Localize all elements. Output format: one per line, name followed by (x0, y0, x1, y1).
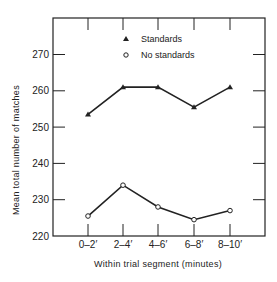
x-tick-label: 0–2′ (79, 239, 98, 250)
legend-circle-icon (124, 53, 128, 57)
series-line (88, 87, 230, 114)
legend-label-no-standards: No standards (141, 50, 195, 60)
data-series (85, 84, 233, 222)
circle-marker-icon (121, 183, 126, 188)
legend-label-standards: Standards (141, 34, 183, 44)
x-tick-label: 6–8′ (185, 239, 204, 250)
y-tick-label: 260 (32, 85, 49, 96)
x-tick-label: 4–6′ (149, 239, 168, 250)
y-tick-label: 250 (32, 122, 49, 133)
legend-triangle-icon (123, 36, 129, 41)
y-tick-label: 240 (32, 158, 49, 169)
x-axis-label: Within trial segment (minutes) (94, 259, 222, 269)
triangle-marker-icon (227, 84, 233, 89)
x-tick-label: 2–4′ (114, 239, 133, 250)
circle-marker-icon (86, 214, 91, 219)
circle-marker-icon (156, 205, 161, 210)
y-tick-label: 270 (32, 49, 49, 60)
circle-marker-icon (228, 208, 233, 213)
y-tick-label: 230 (32, 194, 49, 205)
y-tick-label: 220 (32, 231, 49, 242)
y-axis-label: Mean total number of matches (11, 85, 21, 215)
circle-marker-icon (192, 217, 197, 222)
legend: Standards No standards (123, 34, 195, 60)
line-chart: 220230240250260270 0–2′2–4′4–6′6–8′8–10′… (0, 0, 277, 282)
series-line (88, 185, 230, 219)
x-tick-label: 8–10′ (218, 239, 242, 250)
